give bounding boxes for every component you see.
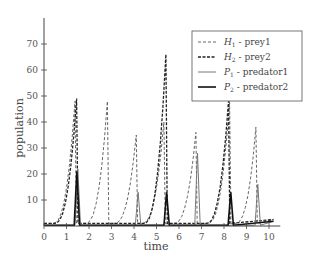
legend-entry: H1 - prey1: [223, 37, 271, 48]
y-tick-label: 50: [27, 91, 39, 101]
legend: H1 - prey1H2 - prey2P1 - predator1P2 - p…: [192, 31, 302, 101]
y-tick-label: 60: [27, 65, 39, 75]
x-tick-label: 7: [199, 232, 205, 242]
y-tick-label: 30: [27, 143, 39, 153]
y-tick-label: 40: [27, 117, 39, 127]
x-tick-label: 2: [86, 232, 92, 242]
x-tick-label: 9: [244, 232, 250, 242]
y-tick-label: 20: [27, 169, 39, 179]
population-chart: 012345678910 10203040506070 time populat…: [0, 0, 309, 267]
x-tick-label: 10: [263, 232, 275, 242]
x-axis-title: time: [144, 240, 169, 253]
y-axis-title: population: [13, 98, 26, 158]
y-axis: 10203040506070: [27, 18, 47, 226]
x-tick-label: 6: [176, 232, 182, 242]
legend-entry: H2 - prey2: [223, 52, 271, 63]
y-tick-label: 70: [27, 39, 39, 49]
x-tick-label: 1: [64, 232, 70, 242]
x-tick-label: 0: [41, 232, 47, 242]
x-tick-label: 8: [221, 232, 227, 242]
x-tick-label: 4: [131, 232, 137, 242]
y-tick-label: 10: [27, 195, 39, 205]
x-tick-label: 3: [109, 232, 115, 242]
